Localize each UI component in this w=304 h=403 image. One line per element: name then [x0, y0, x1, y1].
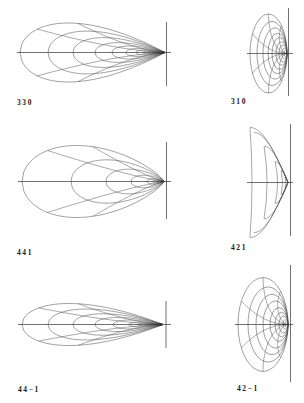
chevron-curve	[264, 146, 288, 182]
radial-curve	[48, 182, 164, 213]
panel-label-44-minus-1: 44−1	[18, 385, 40, 394]
chevron-curve	[264, 183, 288, 219]
panel-label-310: 310	[231, 97, 247, 106]
panel-310	[247, 8, 293, 96]
panel-label-421: 421	[231, 243, 247, 252]
chevron-curve	[250, 183, 288, 238]
chevron-curve	[254, 183, 288, 233]
panel-421	[247, 124, 293, 238]
figure-canvas: 330 310 441 421 44−1 42−1	[0, 0, 304, 403]
chevron-curve	[254, 132, 288, 182]
panel-42-minus-1	[235, 265, 293, 382]
orthogonal-curve	[269, 14, 288, 54]
panel-44-minus-1	[18, 301, 171, 348]
panel-441	[18, 142, 171, 219]
panel-label-330: 330	[17, 98, 33, 107]
panel-330	[17, 22, 171, 86]
radial-curve	[48, 151, 164, 182]
panel-label-441: 441	[17, 248, 33, 257]
chevron-curve	[250, 128, 288, 183]
panel-label-42-minus-1: 42−1	[237, 384, 259, 393]
orthogonal-curve	[269, 54, 288, 94]
